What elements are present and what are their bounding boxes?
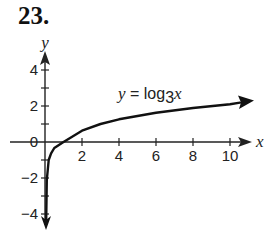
x-tick-8: 8 [189, 147, 197, 164]
log-graph: 2 4 6 8 10 x 4 2 0 −2 −4 y y = [0, 0, 279, 242]
x-tick-10: 10 [222, 147, 239, 164]
x-tick-4: 4 [115, 147, 123, 164]
y-tick-0: 0 [30, 133, 38, 150]
function-label: y = log3x [116, 84, 182, 106]
y-axis-label: y [39, 33, 49, 52]
y-tick-2: 2 [30, 97, 38, 114]
x-tick-2: 2 [78, 147, 86, 164]
y-tick-4: 4 [30, 61, 38, 78]
y-tick-neg2: −2 [21, 169, 38, 186]
x-tick-6: 6 [152, 147, 160, 164]
y-tick-neg4: −4 [21, 205, 38, 222]
x-axis-label: x [255, 132, 264, 151]
